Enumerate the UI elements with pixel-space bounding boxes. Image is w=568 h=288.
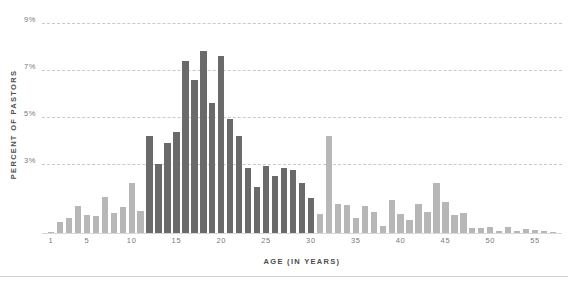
bar	[236, 136, 242, 234]
bar	[308, 198, 314, 234]
bar	[442, 202, 448, 234]
bar	[317, 214, 323, 234]
plot-area: 3%5%7%9%	[42, 14, 562, 234]
bar	[111, 213, 117, 234]
bar	[102, 197, 108, 234]
bar	[281, 168, 287, 234]
x-tick-label: 50	[485, 236, 495, 245]
x-axis-ticks: 1510152025303540455055	[42, 236, 562, 254]
x-tick-label: 15	[172, 236, 182, 245]
chart-screenshot: PERCENT OF PASTORS 3%5%7%9% 151015202530…	[0, 0, 568, 288]
y-tick-label: 5%	[24, 109, 36, 118]
bottom-divider	[0, 276, 568, 277]
bar	[371, 212, 377, 234]
bar	[66, 218, 72, 234]
bar	[460, 213, 466, 234]
bar	[146, 136, 152, 234]
x-tick-label: 45	[441, 236, 451, 245]
y-tick-label: 3%	[24, 156, 36, 165]
bars-group	[42, 14, 562, 234]
bar	[182, 61, 188, 234]
bar	[120, 207, 126, 234]
bar	[218, 56, 224, 234]
bar	[389, 200, 395, 234]
x-tick-label: 40	[396, 236, 406, 245]
bar	[335, 204, 341, 234]
bar	[406, 220, 412, 234]
bar	[344, 205, 350, 234]
x-tick-label: 10	[127, 236, 137, 245]
bar	[129, 183, 135, 234]
bar	[84, 215, 90, 234]
bar	[155, 164, 161, 234]
x-tick-label: 20	[216, 236, 226, 245]
bar	[245, 168, 251, 234]
bar	[451, 215, 457, 234]
bar	[191, 80, 197, 234]
bar	[200, 51, 206, 234]
y-tick-label: 9%	[24, 15, 36, 24]
bar	[299, 183, 305, 234]
x-tick-label: 35	[351, 236, 361, 245]
x-tick-label: 5	[84, 236, 89, 245]
bar	[353, 218, 359, 234]
bar	[415, 204, 421, 234]
bar	[362, 206, 368, 234]
y-tick-label: 7%	[24, 62, 36, 71]
x-tick-label: 30	[306, 236, 316, 245]
y-axis-title-label: PERCENT OF PASTORS	[10, 69, 19, 178]
x-tick-label: 55	[530, 236, 540, 245]
bar	[290, 170, 296, 234]
bar	[75, 206, 81, 234]
axis-baseline	[42, 233, 562, 234]
x-axis-title: AGE (IN YEARS)	[42, 257, 562, 266]
bar	[164, 143, 170, 234]
x-tick-label: 1	[49, 236, 54, 245]
bar	[227, 119, 233, 234]
bar	[173, 132, 179, 234]
y-axis-title: PERCENT OF PASTORS	[8, 14, 20, 234]
bar	[137, 211, 143, 234]
bar	[272, 176, 278, 235]
bar	[326, 136, 332, 234]
x-tick-label: 25	[261, 236, 271, 245]
bar	[263, 166, 269, 234]
bar	[397, 214, 403, 234]
bar	[209, 103, 215, 234]
bar	[424, 212, 430, 234]
bar	[433, 183, 439, 234]
bar	[93, 216, 99, 234]
bar	[254, 187, 260, 234]
